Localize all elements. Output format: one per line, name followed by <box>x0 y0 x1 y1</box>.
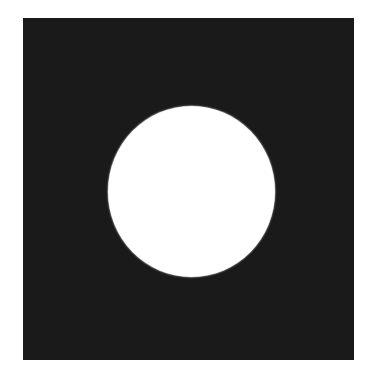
white-circle <box>108 106 275 277</box>
